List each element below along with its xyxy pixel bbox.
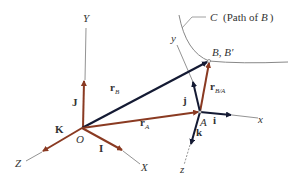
x-axis-fixed-line [123, 151, 140, 164]
label-unit-k-fixed: K [55, 123, 64, 135]
point-a-marker [199, 111, 202, 114]
kinematics-diagram: C (Path of B) Y Z X J K I O rB rA rB/A B… [0, 0, 299, 179]
label-z-moving: z [179, 163, 185, 175]
label-y-moving: y [170, 32, 176, 44]
label-x-moving: x [257, 113, 263, 125]
point-b-marker [208, 60, 211, 63]
unit-vector-j-moving [193, 82, 200, 112]
z-axis-fixed-line [26, 152, 42, 161]
path-label-leader [182, 17, 206, 28]
label-point-b: B, B′ [212, 46, 234, 58]
label-unit-j-moving: j [182, 94, 187, 106]
label-x-fixed: X [140, 161, 149, 173]
path-label: C (Path of B) [210, 11, 274, 24]
y-axis-fixed-line [85, 28, 86, 80]
label-z-fixed: Z [15, 157, 22, 169]
z-axis-moving-line [184, 145, 190, 165]
label-unit-j-fixed: J [72, 96, 78, 108]
label-unit-i-fixed: I [99, 142, 103, 154]
label-r-b: rB [110, 81, 120, 96]
unit-vector-j-fixed [83, 81, 84, 128]
label-unit-i-moving: i [213, 114, 216, 126]
label-unit-k-moving: k [196, 126, 203, 138]
x-axis-moving-line [232, 115, 258, 118]
label-y-fixed: Y [83, 12, 91, 24]
label-origin: O [76, 133, 84, 145]
vector-r-b-a [200, 63, 209, 112]
label-r-b-a: rB/A [210, 80, 226, 95]
